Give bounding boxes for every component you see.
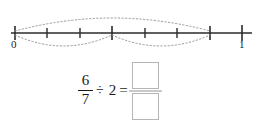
answer-numerator-box[interactable] [132, 62, 159, 89]
dividend-denominator: 7 [79, 91, 93, 109]
worksheet-canvas: 0 1 6 7 ÷ 2 = [0, 0, 264, 125]
answer-fraction [129, 62, 162, 120]
divisor: 2 [107, 83, 119, 98]
equation-area: 6 7 ÷ 2 = [0, 56, 264, 125]
answer-denominator-box[interactable] [132, 93, 159, 120]
number-line-end-label: 1 [239, 39, 245, 50]
number-line-start-label: 0 [11, 39, 17, 50]
fraction-number-line: 0 1 [0, 0, 264, 56]
number-line-graphic [0, 0, 264, 56]
answer-fraction-bar [129, 90, 162, 92]
division-equation: 6 7 ÷ 2 = [78, 58, 162, 123]
arc-below-three-sevenths-to-six-sevenths [112, 35, 210, 46]
equals-operator-icon: = [118, 83, 128, 98]
arc-below-zero-to-three-sevenths [15, 35, 112, 46]
division-operator-icon: ÷ [93, 84, 107, 98]
dividend-numerator: 6 [79, 72, 93, 90]
dividend-fraction: 6 7 [78, 72, 93, 109]
